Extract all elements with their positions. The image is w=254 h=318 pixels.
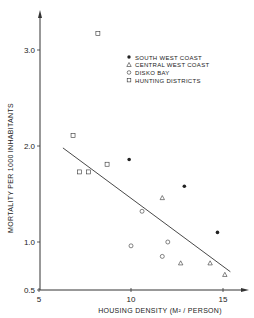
x-tick-label: 10 [127, 295, 136, 304]
scatter-chart: 0.51.02.03.0 51015 MORTALITY PER 1000 IN… [0, 0, 254, 318]
data-point-square [87, 170, 91, 174]
x-axis [40, 288, 249, 292]
legend-item-south-west-coast: SOUTH WEST COAST [127, 55, 202, 61]
legend-label: DISKO BAY [135, 70, 170, 76]
data-point-filled-circle [127, 158, 131, 162]
y-axis [38, 10, 42, 290]
y-axis-arrow-icon [38, 10, 42, 18]
x-tick-label: 15 [219, 295, 228, 304]
data-point-triangle [160, 196, 164, 200]
legend-item-disko-bay: DISKO BAY [127, 70, 169, 76]
y-tick-label: 1.0 [24, 238, 36, 247]
regression-line [63, 148, 230, 272]
y-tick-label: 2.0 [24, 142, 36, 151]
legend-item-central-west-coast: CENTRAL WEST COAST [127, 62, 210, 68]
x-axis-label: HOUSING DENSITY (M² / PERSON) [98, 307, 222, 315]
data-point-circle [160, 254, 164, 258]
square-marker-icon [127, 78, 131, 82]
x-axis-arrow-icon [241, 288, 249, 292]
data-point-square [105, 162, 109, 166]
y-ticks: 0.51.02.03.0 [24, 46, 40, 295]
data-points [71, 32, 227, 277]
y-axis-label: MORTALITY PER 1000 INHABITANTS [7, 103, 14, 233]
data-point-triangle [178, 261, 182, 265]
data-point-square [77, 170, 81, 174]
data-point-triangle [223, 272, 227, 276]
legend-item-hunting-districts: HUNTING DISTRICTS [127, 78, 201, 84]
legend-label: HUNTING DISTRICTS [135, 78, 201, 84]
data-point-filled-circle [216, 231, 220, 235]
filled-circle-marker-icon [127, 55, 130, 58]
x-tick-label: 5 [37, 295, 42, 304]
y-tick-label: 0.5 [24, 286, 36, 295]
data-point-square [71, 133, 75, 137]
triangle-marker-icon [127, 63, 131, 67]
y-tick-label: 3.0 [24, 46, 36, 55]
legend: SOUTH WEST COAST CENTRAL WEST COAST DISK… [127, 55, 210, 84]
data-point-square [96, 32, 100, 36]
data-point-filled-circle [183, 185, 187, 189]
legend-label: CENTRAL WEST COAST [135, 62, 209, 68]
circle-marker-icon [127, 71, 131, 75]
legend-label: SOUTH WEST COAST [135, 55, 202, 61]
chart-canvas: 0.51.02.03.0 51015 MORTALITY PER 1000 IN… [0, 0, 254, 318]
data-point-circle [129, 244, 133, 248]
data-point-circle [166, 240, 170, 244]
data-point-triangle [208, 261, 212, 265]
data-point-circle [140, 209, 144, 213]
